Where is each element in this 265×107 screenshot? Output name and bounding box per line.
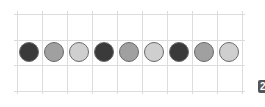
circle-medium <box>44 42 64 62</box>
circle-light <box>144 42 164 62</box>
circle-dark <box>169 42 189 62</box>
circle-dark <box>19 42 39 62</box>
circle-light <box>219 42 239 62</box>
page-number-badge: 2 <box>258 80 265 93</box>
circle-row <box>19 42 239 62</box>
circle-dark <box>94 42 114 62</box>
circle-medium <box>119 42 139 62</box>
circle-medium <box>194 42 214 62</box>
circle-light <box>69 42 89 62</box>
